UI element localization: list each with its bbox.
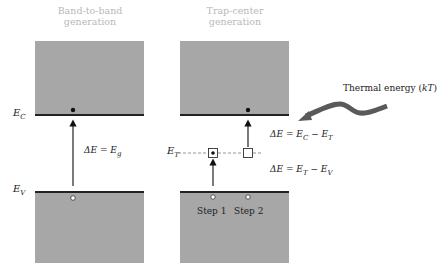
t: ΔE = E xyxy=(270,164,303,174)
t: V xyxy=(327,169,332,177)
hole-icon xyxy=(71,196,76,201)
thermal-energy-label: Thermal energy (kT) xyxy=(343,83,437,93)
empty-trap-icon xyxy=(244,149,253,158)
diagram-graphics xyxy=(0,0,444,274)
kt: kT xyxy=(422,83,433,93)
hole-icon-step2 xyxy=(246,195,250,199)
delta-e-et-ev-label: ΔE = ET − EV xyxy=(270,164,332,177)
delta-eg-sub: g xyxy=(117,150,121,158)
step2-label: Step 2 xyxy=(234,206,263,216)
ev-label: EV xyxy=(13,183,25,197)
t: T xyxy=(328,134,333,142)
ev-sub: V xyxy=(20,189,25,197)
trapped-electron-icon xyxy=(211,151,215,155)
ec-sub: C xyxy=(20,113,25,121)
t: ) xyxy=(434,83,438,93)
delta-eg-text: ΔE = E xyxy=(84,145,117,155)
et-label: ET xyxy=(167,145,179,159)
t: − E xyxy=(308,164,328,174)
et-sub: T xyxy=(174,151,179,159)
electron-icon-right xyxy=(246,108,250,112)
step1-label: Step 1 xyxy=(197,206,226,216)
t: Thermal energy ( xyxy=(343,83,422,93)
thermal-energy-arrow xyxy=(306,104,387,116)
delta-e-ec-et-label: ΔE = EC − ET xyxy=(270,129,333,142)
delta-e-eg-label: ΔE = Eg xyxy=(84,145,121,158)
hole-icon-step1 xyxy=(211,195,215,199)
t: ΔE = E xyxy=(270,129,303,139)
electron-icon xyxy=(71,108,75,112)
ec-label: EC xyxy=(13,107,26,121)
t: − E xyxy=(308,129,328,139)
